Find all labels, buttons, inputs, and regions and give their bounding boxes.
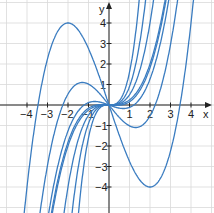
y-tick-label: 3: [100, 38, 106, 50]
x-tick-label: 1: [127, 108, 133, 120]
x-tick-label: −2: [61, 108, 74, 120]
chart-container: −4−3−2−112344321−1−2−3−4xy x y: [0, 0, 214, 213]
x-tick-label: 4: [188, 108, 194, 120]
y-tick-label: 2: [100, 58, 106, 70]
x-tick-label: −4: [20, 108, 33, 120]
y-axis-arrow-icon: [106, 2, 112, 9]
x-axis-label: x: [203, 108, 209, 120]
x-tick-label: −3: [41, 108, 54, 120]
y-tick-label: −2: [95, 140, 108, 152]
y-tick-label: −1: [95, 120, 108, 132]
x-tick-label: 3: [168, 108, 174, 120]
y-tick-label: 4: [100, 17, 106, 29]
y-axis-label: y: [99, 3, 105, 15]
y-tick-label: −3: [95, 161, 108, 173]
y-tick-label: −4: [95, 181, 108, 193]
function-plot: −4−3−2−112344321−1−2−3−4xy: [0, 0, 214, 213]
